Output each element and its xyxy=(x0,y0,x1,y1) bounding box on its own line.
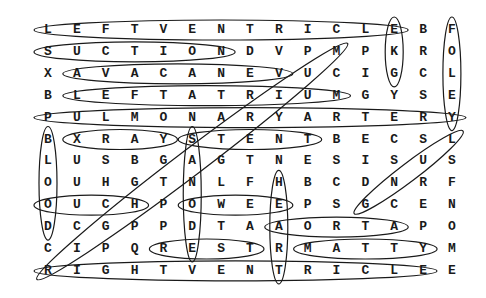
letter-cell[interactable]: T xyxy=(298,131,318,149)
letter-cell[interactable]: E xyxy=(442,87,462,105)
letter-cell[interactable]: V xyxy=(153,21,173,39)
letter-cell[interactable]: T xyxy=(269,262,289,280)
letter-cell[interactable]: B xyxy=(125,152,145,170)
letter-cell[interactable]: O xyxy=(38,174,58,192)
letter-cell[interactable]: A xyxy=(67,65,87,83)
letter-cell[interactable]: D xyxy=(355,174,375,192)
letter-cell[interactable]: I xyxy=(67,240,87,258)
letter-cell[interactable]: Q xyxy=(125,240,145,258)
letter-cell[interactable]: T xyxy=(125,21,145,39)
letter-cell[interactable]: L xyxy=(211,174,231,192)
letter-cell[interactable]: K xyxy=(384,43,404,61)
letter-cell[interactable]: R xyxy=(153,240,173,258)
letter-cell[interactable]: B xyxy=(413,21,433,39)
letter-cell[interactable]: P xyxy=(355,43,375,61)
letter-cell[interactable]: O xyxy=(182,196,202,214)
letter-cell[interactable]: D xyxy=(182,218,202,236)
letter-cell[interactable]: V xyxy=(96,65,116,83)
letter-cell[interactable]: L xyxy=(38,21,58,39)
letter-cell[interactable]: Y xyxy=(153,131,173,149)
letter-cell[interactable]: B xyxy=(327,131,347,149)
letter-cell[interactable]: E xyxy=(240,196,260,214)
letter-cell[interactable]: T xyxy=(240,21,260,39)
letter-cell[interactable]: O xyxy=(442,43,462,61)
letter-cell[interactable]: E xyxy=(269,196,289,214)
letter-cell[interactable]: E xyxy=(240,131,260,149)
letter-cell[interactable]: L xyxy=(384,262,404,280)
letter-cell[interactable]: R xyxy=(269,240,289,258)
letter-cell[interactable]: O xyxy=(38,196,58,214)
letter-cell[interactable]: F xyxy=(442,21,462,39)
letter-cell[interactable]: A xyxy=(182,65,202,83)
letter-cell[interactable]: E xyxy=(67,21,87,39)
letter-cell[interactable]: N xyxy=(182,174,202,192)
letter-cell[interactable]: T xyxy=(211,131,231,149)
letter-cell[interactable]: R xyxy=(269,21,289,39)
letter-cell[interactable]: T xyxy=(153,262,173,280)
letter-cell[interactable]: A xyxy=(125,65,145,83)
letter-cell[interactable]: G xyxy=(96,262,116,280)
letter-cell[interactable]: S xyxy=(413,131,433,149)
letter-cell[interactable]: I xyxy=(355,65,375,83)
letter-cell[interactable]: L xyxy=(96,109,116,127)
letter-cell[interactable]: N xyxy=(269,152,289,170)
letter-cell[interactable]: E xyxy=(384,109,404,127)
letter-cell[interactable]: R xyxy=(413,43,433,61)
letter-cell[interactable]: U xyxy=(413,152,433,170)
letter-cell[interactable]: S xyxy=(442,152,462,170)
letter-cell[interactable]: L xyxy=(442,131,462,149)
letter-cell[interactable]: N xyxy=(211,65,231,83)
letter-cell[interactable]: A xyxy=(182,87,202,105)
letter-cell[interactable]: I xyxy=(153,43,173,61)
letter-cell[interactable]: P xyxy=(298,43,318,61)
letter-cell[interactable]: R xyxy=(413,174,433,192)
letter-cell[interactable]: C xyxy=(384,196,404,214)
letter-cell[interactable]: A xyxy=(269,218,289,236)
letter-cell[interactable]: A xyxy=(298,109,318,127)
letter-cell[interactable]: E xyxy=(384,21,404,39)
letter-cell[interactable]: I xyxy=(327,262,347,280)
letter-cell[interactable]: L xyxy=(442,65,462,83)
letter-cell[interactable]: C xyxy=(153,65,173,83)
letter-cell[interactable]: X xyxy=(67,131,87,149)
letter-cell[interactable]: Y xyxy=(384,87,404,105)
letter-cell[interactable]: T xyxy=(211,87,231,105)
letter-cell[interactable]: O xyxy=(298,218,318,236)
letter-cell[interactable]: U xyxy=(67,109,87,127)
letter-cell[interactable]: T xyxy=(384,240,404,258)
letter-cell[interactable]: M xyxy=(442,240,462,258)
letter-cell[interactable]: E xyxy=(298,152,318,170)
letter-cell[interactable]: H xyxy=(96,174,116,192)
letter-cell[interactable]: P xyxy=(298,196,318,214)
letter-cell[interactable]: U xyxy=(67,196,87,214)
letter-cell[interactable]: E xyxy=(355,131,375,149)
letter-cell[interactable]: U xyxy=(67,174,87,192)
letter-cell[interactable]: H xyxy=(269,174,289,192)
letter-cell[interactable]: N xyxy=(442,196,462,214)
letter-cell[interactable]: C xyxy=(384,131,404,149)
letter-cell[interactable]: A xyxy=(125,131,145,149)
letter-cell[interactable]: G xyxy=(355,87,375,105)
letter-cell[interactable]: X xyxy=(38,65,58,83)
letter-cell[interactable]: M xyxy=(125,109,145,127)
letter-cell[interactable]: O xyxy=(182,43,202,61)
letter-cell[interactable]: D xyxy=(38,218,58,236)
letter-cell[interactable]: N xyxy=(182,109,202,127)
letter-cell[interactable]: C xyxy=(355,262,375,280)
letter-cell[interactable]: P xyxy=(125,218,145,236)
letter-cell[interactable]: O xyxy=(442,218,462,236)
letter-cell[interactable]: G xyxy=(384,65,404,83)
letter-cell[interactable]: T xyxy=(211,218,231,236)
letter-cell[interactable]: C xyxy=(96,43,116,61)
letter-cell[interactable]: T xyxy=(125,43,145,61)
letter-cell[interactable]: I xyxy=(269,87,289,105)
letter-cell[interactable]: N xyxy=(269,131,289,149)
letter-cell[interactable]: T xyxy=(355,109,375,127)
letter-cell[interactable]: U xyxy=(298,87,318,105)
letter-cell[interactable]: P xyxy=(153,196,173,214)
letter-cell[interactable]: C xyxy=(96,196,116,214)
letter-cell[interactable]: S xyxy=(413,87,433,105)
letter-cell[interactable]: C xyxy=(67,218,87,236)
letter-cell[interactable]: F xyxy=(96,21,116,39)
letter-cell[interactable]: M xyxy=(327,87,347,105)
